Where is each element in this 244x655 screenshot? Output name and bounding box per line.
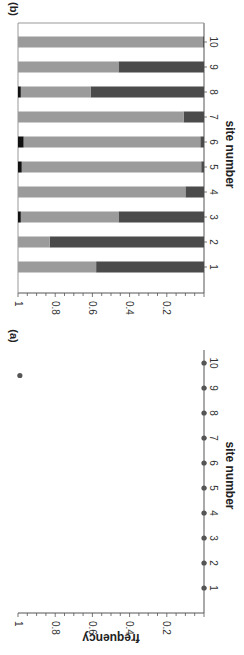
bar-segment-dark	[203, 37, 204, 48]
stacked-bar	[18, 137, 204, 148]
bar-segment-light	[18, 187, 185, 198]
stacked-bar	[18, 262, 204, 273]
bar-segment-light	[18, 237, 50, 248]
value-tick-label: 1	[13, 621, 24, 627]
value-tick-label: 0.8	[50, 301, 61, 315]
site-tick-label: 1	[208, 585, 219, 591]
data-point	[201, 410, 206, 415]
panel-label: (a)	[8, 329, 20, 343]
data-point	[201, 435, 206, 440]
bar-segment-black	[18, 87, 21, 98]
site-tick-label: 6	[208, 139, 219, 145]
bar-segment-light	[21, 87, 91, 98]
y-axis-title: frequency	[82, 631, 140, 645]
panel-a-scatter-chart: 10.80.60.40.212345678910site number(a)fr…	[8, 329, 237, 645]
bar-segment-light	[18, 262, 96, 273]
site-tick-label: 9	[208, 64, 219, 70]
data-point	[201, 560, 206, 565]
site-tick-label: 3	[208, 214, 219, 220]
panel-b-stacked-bar-chart: 10.80.60.40.212345678910site number(b)	[8, 2, 237, 315]
site-tick-label: 10	[208, 357, 219, 369]
stacked-bar	[18, 187, 204, 198]
bar-segment-light	[18, 62, 118, 73]
site-tick-label: 10	[208, 36, 219, 48]
value-tick-label: 0.8	[50, 621, 61, 635]
bar-segment-dark	[201, 162, 204, 173]
bar-segment-dark	[91, 87, 204, 98]
bar-segment-black	[18, 137, 24, 148]
value-tick-label: 0.2	[161, 621, 172, 635]
stacked-bar	[18, 112, 204, 123]
site-tick-label: 6	[208, 460, 219, 466]
site-tick-label: 7	[208, 114, 219, 120]
site-tick-label: 2	[208, 560, 219, 566]
data-point	[201, 360, 206, 365]
site-tick-label: 8	[208, 410, 219, 416]
site-tick-label: 4	[208, 189, 219, 195]
bar-segment-light	[18, 37, 203, 48]
stacked-bar	[18, 37, 204, 48]
data-point	[201, 385, 206, 390]
data-point-outlier	[17, 373, 22, 378]
data-point	[201, 460, 206, 465]
bar-segment-light	[24, 137, 201, 148]
bar-segment-dark	[200, 137, 204, 148]
site-tick-label: 9	[208, 385, 219, 391]
bar-segment-dark	[50, 237, 204, 248]
site-tick-label: 3	[208, 535, 219, 541]
bar-segment-dark	[118, 212, 204, 223]
stacked-bar	[18, 62, 204, 73]
x-axis-title: site number	[223, 441, 237, 509]
data-point	[201, 585, 206, 590]
value-tick-label: 0.4	[124, 301, 135, 315]
site-tick-label: 1	[208, 264, 219, 270]
site-tick-label: 7	[208, 435, 219, 441]
panel-label: (b)	[8, 2, 20, 16]
site-tick-label: 8	[208, 89, 219, 95]
stacked-bar	[18, 162, 204, 173]
value-tick-label: 1	[13, 301, 24, 307]
figure: 10.80.60.40.212345678910site number(b) 1…	[0, 0, 244, 655]
site-tick-label: 4	[208, 510, 219, 516]
bar-segment-black	[18, 162, 22, 173]
bar-segment-black	[18, 212, 21, 223]
data-point	[201, 535, 206, 540]
bar-segment-dark	[118, 62, 204, 73]
site-tick-label: 5	[208, 485, 219, 491]
data-point	[201, 510, 206, 515]
bar-segment-dark	[96, 262, 204, 273]
bar-segment-light	[21, 212, 119, 223]
stacked-bar	[18, 237, 204, 248]
x-axis-title: site number	[223, 120, 237, 188]
bar-segment-dark	[184, 112, 204, 123]
site-tick-label: 5	[208, 164, 219, 170]
value-tick-label: 0.2	[161, 301, 172, 315]
site-tick-label: 2	[208, 239, 219, 245]
bar-segment-light	[22, 162, 201, 173]
bar-segment-light	[18, 112, 184, 123]
value-tick-label: 0.6	[87, 301, 98, 315]
stacked-bar	[18, 87, 204, 98]
data-point	[201, 485, 206, 490]
bar-segment-dark	[185, 187, 204, 198]
stacked-bar	[18, 212, 204, 223]
